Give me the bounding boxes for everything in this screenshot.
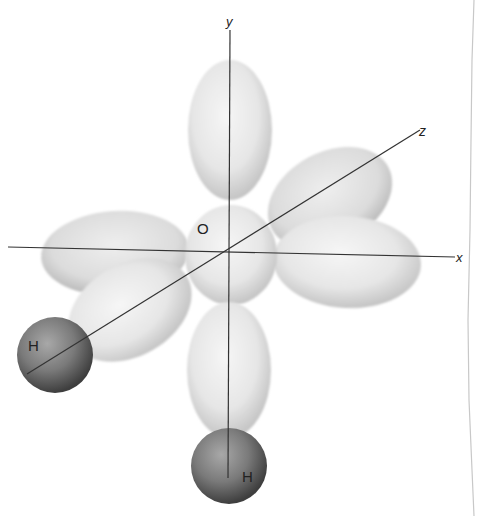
oxygen-label: O <box>197 220 209 237</box>
x-axis-label: x <box>455 250 463 265</box>
water-molecule-orbital-diagram: y z x O H H <box>0 0 484 516</box>
hydrogen-atom-bottom <box>191 428 267 504</box>
hydrogen-left-label: H <box>28 337 39 354</box>
z-axis-label: z <box>418 123 426 139</box>
page-edge-line <box>468 0 474 516</box>
hydrogen-atom-left <box>17 317 93 393</box>
y-axis-label: y <box>225 14 234 29</box>
hydrogen-bottom-label: H <box>242 468 253 485</box>
